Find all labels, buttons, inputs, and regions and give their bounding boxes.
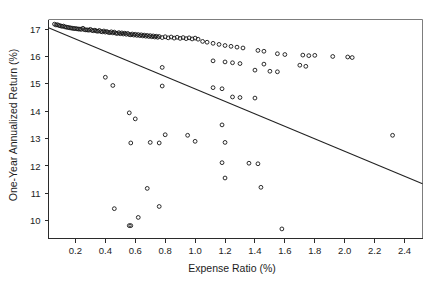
x-tick-label: 1.2 <box>218 245 231 256</box>
y-tick-label: 16 <box>30 51 41 62</box>
y-tick-label: 12 <box>30 161 41 172</box>
chart-canvas: 0.20.40.60.81.01.21.41.61.82.02.22.4 101… <box>0 0 440 281</box>
x-tick-label: 0.6 <box>129 245 142 256</box>
x-tick-label: 2.2 <box>368 245 381 256</box>
x-tick-label: 0.8 <box>159 245 172 256</box>
y-tick-label: 17 <box>30 24 41 35</box>
x-tick-label: 2.0 <box>338 245 351 256</box>
y-tick-label: 13 <box>30 133 41 144</box>
y-tick-label: 15 <box>30 78 41 89</box>
x-tick-label: 1.4 <box>248 245 261 256</box>
x-axis-label: Expense Ratio (%) <box>188 262 276 274</box>
y-tick-label: 14 <box>30 106 41 117</box>
y-tick-label: 11 <box>31 188 41 199</box>
x-tick-label: 1.0 <box>188 245 201 256</box>
x-tick-label: 1.6 <box>278 245 291 256</box>
x-tick-label: 1.8 <box>308 245 321 256</box>
y-axis-label: One-Year Annualized Return (%) <box>7 49 19 202</box>
scatter-plot-figure: 0.20.40.60.81.01.21.41.61.82.02.22.4 101… <box>0 0 440 281</box>
y-tick-label: 10 <box>30 215 41 226</box>
x-tick-label: 0.2 <box>69 245 82 256</box>
x-tick-label: 0.4 <box>99 245 112 256</box>
x-tick-label: 2.4 <box>398 245 411 256</box>
